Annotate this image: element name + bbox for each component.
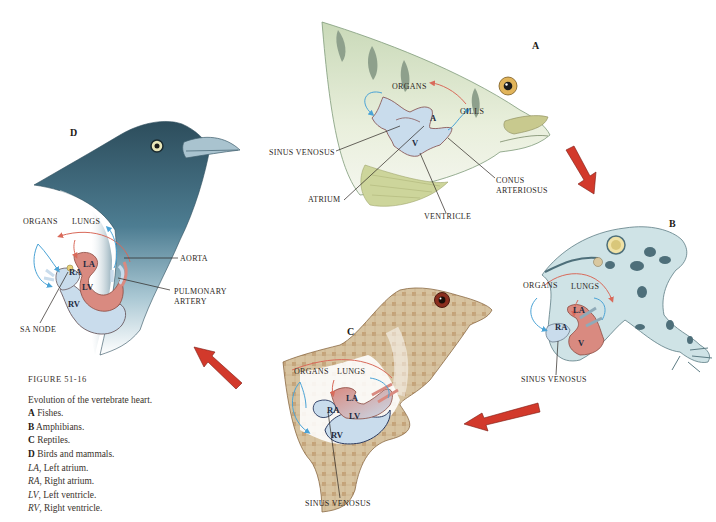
label-a-conus-2: ARTERIOSUS	[496, 186, 548, 195]
chamber-c-lv: LV	[349, 411, 360, 421]
panel-label-d: D	[70, 127, 77, 138]
legend-item: LA, Left atrium.	[28, 462, 198, 476]
chamber-d-la: LA	[83, 259, 95, 269]
label-d-pulmonary-2: ARTERY	[174, 297, 207, 306]
chamber-b-v: V	[578, 338, 584, 348]
chamber-d-rv: RV	[68, 299, 80, 309]
panel-label-c: C	[347, 326, 354, 337]
arrow-c-to-d	[194, 347, 242, 389]
arrow-b-to-c	[464, 403, 540, 431]
chamber-c-rv: RV	[331, 430, 343, 440]
legend-item: B Amphibians.	[28, 421, 198, 435]
figure-legend: A Fishes. B Amphibians. C Reptiles. D Bi…	[28, 407, 198, 516]
arrow-a-to-b	[566, 146, 596, 194]
panel-label-a: A	[532, 40, 539, 51]
label-a-gills: GILLS	[460, 107, 484, 116]
legend-item: A Fishes.	[28, 407, 198, 421]
label-a-sinus-venosus: SINUS VENOSUS	[269, 148, 335, 157]
label-b-organs: ORGANS	[523, 281, 558, 290]
label-d-pulmonary-1: PULMONARY	[174, 287, 227, 296]
panel-label-b: B	[669, 218, 676, 229]
figure-title: Evolution of the vertebrate heart.	[28, 394, 198, 408]
figure-caption: FIGURE 51-16 Evolution of the vertebrate…	[28, 373, 198, 516]
label-d-organs: ORGANS	[23, 217, 58, 226]
chamber-d-lv: LV	[82, 282, 93, 292]
label-a-atrium: ATRIUM	[308, 195, 340, 204]
legend-item: D Birds and mammals.	[28, 448, 198, 462]
chamber-c-ra: RA	[327, 405, 339, 415]
label-d-lungs: LUNGS	[72, 217, 100, 226]
figure-number: FIGURE 51-16	[28, 373, 198, 387]
label-c-organs: ORGANS	[294, 367, 329, 376]
frog-illustration	[542, 227, 712, 372]
label-d-sa-node: SA NODE	[20, 325, 56, 334]
chamber-a-atrium: A	[430, 113, 436, 123]
label-b-sinus-venosus: SINUS VENOSUS	[521, 375, 587, 384]
label-a-organs: ORGANS	[392, 82, 427, 91]
chamber-a-ventricle: V	[412, 138, 418, 148]
label-c-lungs: LUNGS	[337, 367, 365, 376]
label-a-ventricle: VENTRICLE	[424, 212, 471, 221]
label-a-conus-1: CONUS	[496, 176, 525, 185]
bird-illustration	[34, 121, 240, 355]
legend-item: C Reptiles.	[28, 434, 198, 448]
legend-item: LV, Left ventricle.	[28, 489, 198, 503]
chamber-c-la: LA	[346, 393, 358, 403]
legend-item: RV, Right ventricle.	[28, 502, 198, 516]
chamber-d-ra: RA	[69, 267, 81, 277]
chamber-b-ra: RA	[555, 322, 567, 332]
label-d-aorta: AORTA	[180, 254, 208, 263]
chamber-b-la: LA	[573, 305, 585, 315]
label-c-sinus-venosus: SINUS VENOSUS	[305, 499, 371, 508]
label-b-lungs: LUNGS	[571, 282, 599, 291]
legend-item: RA, Right atrium.	[28, 475, 198, 489]
